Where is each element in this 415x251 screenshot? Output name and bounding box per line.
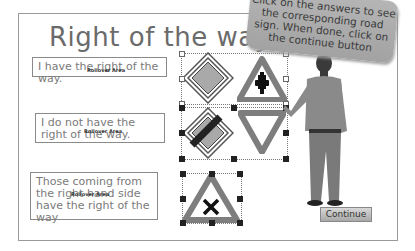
yield-sign-icon[interactable] — [238, 110, 286, 154]
answer-box-3[interactable]: Those coming from the right hand side ha… — [30, 172, 158, 220]
resize-handle[interactable] — [179, 51, 185, 57]
resize-handle[interactable] — [237, 196, 243, 202]
answer-box-2[interactable]: I do not have the right of the way. Roll… — [35, 113, 165, 143]
resize-handle[interactable] — [237, 171, 243, 177]
resize-handle[interactable] — [237, 220, 243, 226]
priority-road-sign-icon[interactable] — [182, 52, 234, 104]
resize-handle[interactable] — [180, 171, 186, 177]
rollover-tag: Rollover Area — [84, 125, 122, 137]
resize-handle[interactable] — [179, 130, 185, 136]
resize-handle[interactable] — [231, 156, 237, 162]
resize-handle[interactable] — [180, 220, 186, 226]
resize-handle[interactable] — [179, 156, 185, 162]
resize-handle[interactable] — [179, 105, 185, 111]
rollover-tag: Rollover Area — [87, 64, 125, 76]
resize-handle[interactable] — [179, 76, 185, 82]
resize-handle[interactable] — [231, 105, 237, 111]
resize-handle[interactable] — [180, 196, 186, 202]
end-of-priority-road-sign-icon[interactable] — [182, 107, 234, 159]
slide-title: Right of the way — [49, 22, 271, 52]
resize-handle[interactable] — [209, 171, 215, 177]
crossroads-right-priority-sign-icon[interactable] — [182, 173, 240, 223]
crossroads-priority-sign-icon[interactable] — [237, 56, 287, 102]
resize-handle[interactable] — [209, 220, 215, 226]
continue-button[interactable]: Continue — [320, 207, 372, 222]
presenter-figure — [281, 51, 361, 211]
rollover-tag: Rollover Area — [71, 188, 109, 200]
answer-box-1[interactable]: I have the right of the way. Rollover Ar… — [32, 57, 167, 77]
